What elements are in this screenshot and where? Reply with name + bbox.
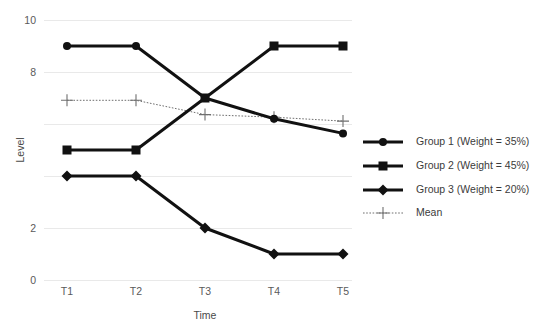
series-group-1	[63, 42, 347, 137]
y-tick-label-8: 8	[30, 66, 36, 78]
x-tick-label-t4: T4	[268, 285, 280, 297]
legend-item-group-1[interactable]: Group 1 (Weight = 35%)	[363, 135, 529, 147]
legend-item-mean[interactable]: Mean	[363, 206, 442, 219]
line-chart: 10 8 2 0 Level	[0, 0, 543, 335]
legend: Group 1 (Weight = 35%) Group 2 (Weight =…	[363, 135, 529, 219]
group-3-line-path	[67, 176, 343, 254]
x-tick-label-t3: T3	[199, 285, 211, 297]
y-tick-label-10: 10	[24, 14, 36, 26]
legend-item-group-3[interactable]: Group 3 (Weight = 20%)	[363, 183, 529, 196]
x-axis-ticks: T1 T2 T3 T4 T5	[61, 285, 349, 297]
legend-marker-circle-icon	[379, 138, 387, 146]
legend-label-group-3: Group 3 (Weight = 20%)	[416, 183, 529, 195]
group-3-markers	[62, 171, 349, 260]
legend-label-group-2: Group 2 (Weight = 45%)	[416, 159, 529, 171]
clipped-caption-fragment	[0, 329, 420, 335]
y-tick-label-2: 2	[30, 222, 36, 234]
legend-item-group-2[interactable]: Group 2 (Weight = 45%)	[363, 159, 529, 171]
x-tick-label-t2: T2	[130, 285, 142, 297]
x-tick-label-t5: T5	[337, 285, 349, 297]
x-axis-title: Time	[194, 309, 217, 321]
group-1-markers	[63, 42, 347, 137]
legend-marker-diamond-icon	[378, 185, 389, 196]
legend-marker-plus-icon	[377, 207, 389, 219]
y-tick-label-0: 0	[30, 274, 36, 286]
chart-container: 10 8 2 0 Level	[0, 0, 543, 335]
series-group-3	[62, 171, 349, 260]
x-tick-label-t1: T1	[61, 285, 73, 297]
series-group-2	[63, 42, 348, 155]
legend-label-group-1: Group 1 (Weight = 35%)	[416, 135, 529, 147]
y-axis-title: Level	[14, 137, 26, 162]
legend-marker-square-icon	[379, 162, 388, 171]
group-2-markers	[63, 42, 348, 155]
y-axis-ticks: 10 8 2 0	[24, 14, 36, 286]
legend-label-mean: Mean	[416, 206, 442, 218]
